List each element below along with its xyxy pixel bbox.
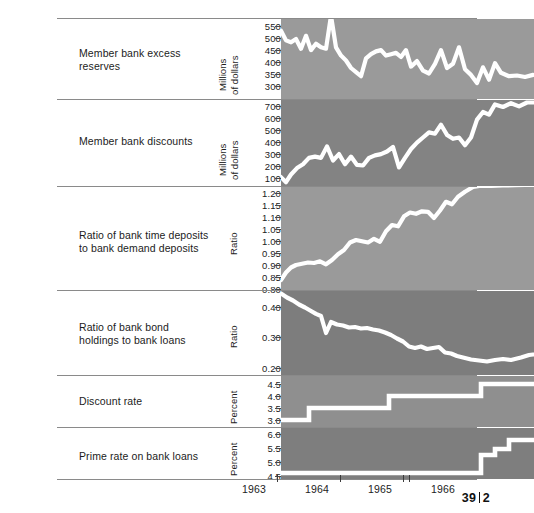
unit-label-of-dollars: of dollars <box>229 140 240 180</box>
y-tick-mark <box>275 130 281 131</box>
panel-member-bank-discounts: Member bank discounts Millions of dollar… <box>57 100 477 186</box>
y-tick-mark <box>275 166 281 167</box>
y-ticks-panel-1: 550 500 450 400 350 300 <box>243 19 281 99</box>
panel-label-line1: Ratio of bank time deposits <box>79 229 219 242</box>
y-tick-mark <box>275 26 281 27</box>
x-tick-mark <box>409 475 410 482</box>
panel-bond-to-loans-ratio: Ratio of bank bond holdings to bank loan… <box>57 291 477 375</box>
series-line-excess-reserves <box>281 19 534 99</box>
panel-label-line1: Prime rate on bank loans <box>79 450 219 463</box>
page-marker: 392 <box>462 491 490 505</box>
panel-label-discounts: Member bank discounts <box>79 135 219 148</box>
panel-label-discount-rate: Discount rate <box>79 395 219 408</box>
unit-label-ratio: Ratio <box>228 325 239 348</box>
series-line-deposit-ratio <box>281 187 534 290</box>
series-line-bond-loan-ratio <box>281 291 534 375</box>
page-marker-left: 39 <box>462 491 477 505</box>
y-tick-mark <box>275 448 281 449</box>
series-step-discount-rate <box>281 376 534 427</box>
unit-label-of-dollars: of dollars <box>229 55 240 95</box>
y-tick-mark <box>275 277 281 278</box>
y-tick-mark <box>275 253 281 254</box>
panel-label-deposit-ratio: Ratio of bank time deposits to bank dema… <box>79 229 219 254</box>
x-axis-label-1963: 1963 <box>242 483 266 495</box>
y-tick-mark <box>275 142 281 143</box>
panel-label-line2: reserves <box>79 60 219 73</box>
y-tick-mark <box>275 118 281 119</box>
y-tick-mark <box>275 434 281 435</box>
y-ticks-panel-4: 0.40 0.30 0.20 <box>243 291 281 375</box>
x-axis: 1963 1964 1965 1966 <box>57 480 477 502</box>
y-tick-mark <box>275 265 281 266</box>
x-axis-label-1964: 1964 <box>305 483 329 495</box>
x-axis-label-1965: 1965 <box>368 483 392 495</box>
y-tick-mark <box>275 396 281 397</box>
panel-label-line1: Member bank discounts <box>79 135 219 148</box>
panel-member-bank-excess-reserves: Member bank excess reserves Millions of … <box>57 19 477 99</box>
x-axis-label-1966: 1966 <box>431 483 455 495</box>
y-tick-mark <box>275 62 281 63</box>
y-tick-mark <box>275 420 281 421</box>
y-tick-mark <box>275 307 281 308</box>
unit-label-millions: Millions <box>217 144 228 176</box>
panel-discount-rate: Discount rate Percent 4.5 4.0 3.5 3.0 <box>57 376 477 427</box>
panel-label-line2: holdings to bank loans <box>79 334 219 347</box>
y-tick-mark <box>275 50 281 51</box>
y-tick-mark <box>275 154 281 155</box>
y-tick-mark <box>275 384 281 385</box>
panel-time-to-demand-deposits: Ratio of bank time deposits to bank dema… <box>57 187 477 290</box>
series-line-discounts <box>281 100 534 186</box>
panel-prime-rate: Prime rate on bank loans Percent 6.0 5.5… <box>57 428 477 479</box>
x-tick-mark <box>277 475 278 482</box>
y-tick-mark <box>275 408 281 409</box>
y-tick-mark <box>275 38 281 39</box>
y-tick-mark <box>275 74 281 75</box>
panel-label-line1: Ratio of bank bond <box>79 321 219 334</box>
y-tick-mark <box>275 476 281 477</box>
unit-label-ratio: Ratio <box>228 232 239 255</box>
y-tick-mark <box>275 106 281 107</box>
x-tick-mark <box>340 475 341 482</box>
y-tick-mark <box>275 193 281 194</box>
y-tick-mark <box>275 178 281 179</box>
y-tick-mark <box>275 337 281 338</box>
y-ticks-panel-2: 700 600 500 400 300 200 100 <box>243 100 281 186</box>
y-ticks-panel-6: 6.0 5.5 5.0 4.5 <box>243 428 281 479</box>
x-tick-mark <box>403 475 404 482</box>
y-tick-mark <box>275 368 281 369</box>
y-tick-mark <box>275 462 281 463</box>
unit-label-percent: Percent <box>228 443 239 476</box>
panel-label-line1: Discount rate <box>79 395 219 408</box>
panel-label-excess-reserves: Member bank excess reserves <box>79 47 219 72</box>
unit-label-percent: Percent <box>228 391 239 424</box>
panel-label-line1: Member bank excess <box>79 47 219 60</box>
panel-label-line2: to bank demand deposits <box>79 242 219 255</box>
y-tick-mark <box>275 229 281 230</box>
panel-label-bond-loan-ratio: Ratio of bank bond holdings to bank loan… <box>79 321 219 346</box>
page-marker-right: 2 <box>483 491 490 505</box>
y-ticks-panel-3: 1.20 1.15 1.10 1.05 1.00 0.95 0.90 0.85 … <box>243 187 281 290</box>
y-tick-mark <box>275 86 281 87</box>
unit-label-millions: Millions <box>217 59 228 91</box>
y-tick-mark <box>275 217 281 218</box>
panel-label-prime-rate: Prime rate on bank loans <box>79 450 219 463</box>
page-marker-divider <box>479 492 481 503</box>
y-tick-mark <box>275 205 281 206</box>
series-step-prime-rate <box>281 428 534 479</box>
y-tick-mark <box>275 241 281 242</box>
